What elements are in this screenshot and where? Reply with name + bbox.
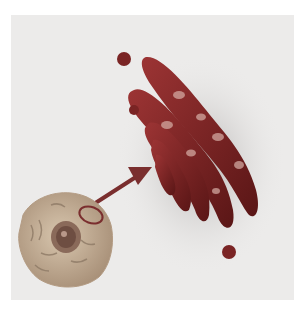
animal-cell xyxy=(19,193,113,287)
illustration-panel xyxy=(11,15,294,300)
golgi-illustration xyxy=(11,15,294,300)
